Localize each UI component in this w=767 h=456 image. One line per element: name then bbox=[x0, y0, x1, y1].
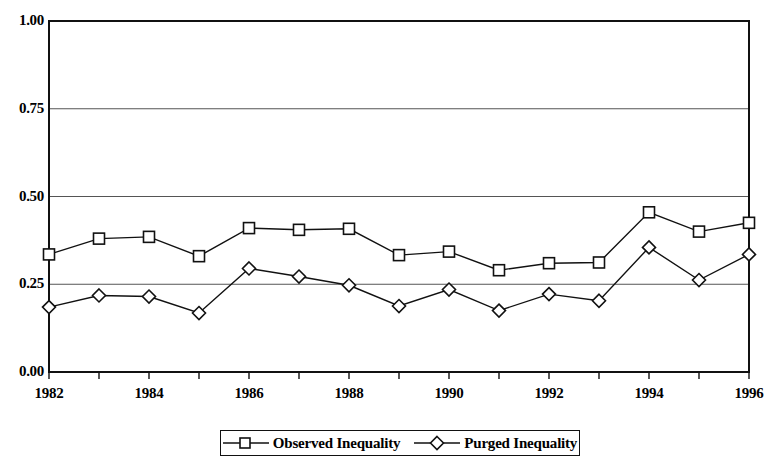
x-axis-tick-label: 1986 bbox=[219, 386, 279, 401]
data-point bbox=[293, 270, 306, 283]
data-point bbox=[144, 231, 155, 242]
data-point bbox=[644, 207, 655, 218]
inequality-line-chart: 1.000.750.500.250.00 1982198419861988199… bbox=[0, 0, 767, 456]
square-marker-icon bbox=[223, 435, 269, 451]
x-axis-tick-label: 1988 bbox=[319, 386, 379, 401]
data-point bbox=[494, 265, 505, 276]
data-point bbox=[594, 257, 605, 268]
x-axis-tick-label: 1996 bbox=[719, 386, 767, 401]
data-point bbox=[244, 223, 255, 234]
data-point bbox=[694, 226, 705, 237]
legend-label-purged: Purged Inequality bbox=[464, 436, 577, 451]
data-point bbox=[43, 301, 56, 314]
data-point bbox=[94, 233, 105, 244]
x-axis-tick-label: 1982 bbox=[19, 386, 79, 401]
data-point bbox=[194, 251, 205, 262]
x-axis-tick-label: 1984 bbox=[119, 386, 179, 401]
legend-item-purged-inequality: Purged Inequality bbox=[414, 435, 577, 451]
x-axis-tick-label: 1994 bbox=[619, 386, 679, 401]
data-point bbox=[393, 300, 406, 313]
diamond-marker-icon bbox=[414, 435, 460, 451]
data-point bbox=[544, 258, 555, 269]
data-point bbox=[443, 283, 456, 296]
legend-item-observed-inequality: Observed Inequality bbox=[223, 435, 400, 451]
data-point bbox=[543, 288, 556, 301]
y-axis-tick-label: 0.25 bbox=[0, 276, 44, 291]
data-point bbox=[493, 304, 506, 317]
y-axis-tick-label: 0.75 bbox=[0, 101, 44, 116]
legend-label-observed: Observed Inequality bbox=[273, 436, 400, 451]
data-point bbox=[444, 246, 455, 257]
chart-legend: Observed Inequality Purged Inequality bbox=[220, 430, 580, 456]
y-axis-tick-label: 0.00 bbox=[0, 364, 44, 379]
x-axis-tick-label: 1992 bbox=[519, 386, 579, 401]
data-point bbox=[744, 217, 755, 228]
y-axis-tick-label: 1.00 bbox=[0, 13, 44, 28]
series-markers-group bbox=[43, 207, 756, 320]
data-point bbox=[93, 289, 106, 302]
data-point bbox=[44, 249, 55, 260]
data-point bbox=[743, 248, 756, 261]
data-point bbox=[394, 250, 405, 261]
data-point bbox=[344, 223, 355, 234]
data-point bbox=[343, 279, 356, 292]
y-axis-tick-label: 0.50 bbox=[0, 189, 44, 204]
x-axis-tick-label: 1990 bbox=[419, 386, 479, 401]
x-axis-ticks bbox=[49, 372, 749, 379]
data-point bbox=[294, 224, 305, 235]
data-point bbox=[143, 290, 156, 303]
